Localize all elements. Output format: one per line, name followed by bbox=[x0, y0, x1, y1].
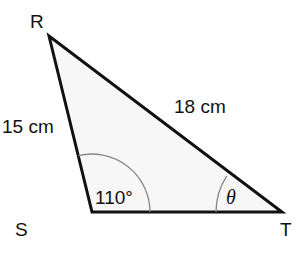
vertex-label-R: R bbox=[30, 11, 44, 32]
vertex-label-S: S bbox=[15, 219, 28, 240]
side-label-RT: 18 cm bbox=[174, 96, 226, 117]
angle-label-S: 110° bbox=[95, 187, 133, 208]
triangle-RST bbox=[49, 36, 282, 212]
angle-label-T: θ bbox=[226, 186, 236, 208]
vertex-label-T: T bbox=[280, 219, 292, 240]
triangle-svg: R S T 15 cm 18 cm 110° θ bbox=[0, 0, 303, 255]
side-label-RS: 15 cm bbox=[2, 116, 54, 137]
triangle-diagram: R S T 15 cm 18 cm 110° θ bbox=[0, 0, 303, 255]
